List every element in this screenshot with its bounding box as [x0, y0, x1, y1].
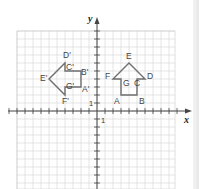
- vertex-label-c: C: [134, 78, 140, 88]
- vertex-label-d-prime: D': [63, 50, 71, 60]
- vertex-label-f-prime: F': [62, 96, 69, 106]
- vertex-label-e-prime: E': [40, 73, 48, 83]
- vertex-label-g-prime: G': [66, 81, 75, 91]
- coordinate-plane: yx11 ABCDEFGA'B'C'D'E'F'G': [0, 0, 199, 189]
- x-axis-label: x: [183, 114, 189, 125]
- x-unit-label: 1: [101, 116, 105, 125]
- y-unit-label: 1: [89, 99, 93, 108]
- y-axis-label: y: [87, 13, 93, 24]
- vertex-label-g: G: [123, 78, 130, 88]
- vertex-label-c-prime: C': [66, 62, 74, 72]
- axes: yx11: [8, 13, 192, 189]
- vertex-label-b-prime: B': [81, 67, 89, 77]
- vertex-label-d: D: [147, 71, 153, 81]
- vertex-label-b: B: [139, 96, 145, 106]
- vertex-label-f: F: [105, 71, 110, 81]
- vertex-label-a: A: [114, 96, 120, 106]
- page-edge-shadow: [193, 0, 199, 189]
- vertex-label-a-prime: A': [82, 84, 90, 94]
- vertex-label-e: E: [126, 51, 132, 61]
- coordinate-grid-diagram: yx11 ABCDEFGA'B'C'D'E'F'G': [0, 0, 199, 189]
